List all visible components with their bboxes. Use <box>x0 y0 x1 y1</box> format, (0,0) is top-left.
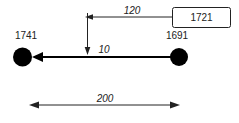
dimension-diagram: 1721 120 10 1741 1691 200 <box>0 0 239 123</box>
span-left-arrowhead-icon <box>29 102 39 109</box>
dimension-label-top: 120 <box>124 5 141 16</box>
node-right <box>170 48 188 66</box>
main-link-arrowhead-icon <box>32 52 43 62</box>
value-box-label: 1721 <box>190 12 213 23</box>
node-left-label: 1741 <box>15 30 38 41</box>
diagram-canvas: 1721 120 10 1741 1691 200 <box>0 0 239 123</box>
node-right-label: 1691 <box>166 30 189 41</box>
down-arrowhead-icon <box>85 47 91 55</box>
span-right-arrowhead-icon <box>170 102 180 109</box>
node-left <box>13 48 32 67</box>
dimension-label-offset: 10 <box>98 44 110 55</box>
left-arrowhead-icon <box>85 14 93 20</box>
dimension-label-span: 200 <box>96 93 114 104</box>
